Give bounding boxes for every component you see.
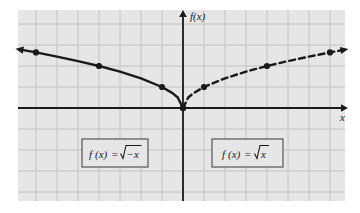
right-label-equals: = — [244, 148, 251, 160]
left-label-equals: = — [111, 148, 118, 160]
data-point-marker — [180, 105, 186, 111]
right-label-formula: f (x) = x — [222, 146, 269, 162]
left-label-radicand: −x — [127, 148, 139, 160]
right-label-arg: (x) — [228, 148, 241, 161]
right-label-radicand: x — [260, 148, 266, 160]
data-point-marker — [96, 63, 102, 69]
x-axis-label: x — [339, 111, 345, 123]
function-graph-figure: f(x) x f (x) = −x f (x) = x — [0, 0, 360, 213]
data-point-marker — [33, 49, 39, 55]
left-function-label-box: f (x) = −x — [82, 139, 148, 167]
left-label-arg: (x) — [95, 148, 108, 161]
left-label-formula: f (x) = −x — [89, 146, 142, 162]
data-point-marker — [264, 63, 270, 69]
data-point-marker — [201, 84, 207, 90]
right-function-label-box: f (x) = x — [212, 139, 283, 167]
y-axis-label: f(x) — [190, 10, 206, 23]
data-point-marker — [159, 84, 165, 90]
data-point-marker — [327, 49, 333, 55]
